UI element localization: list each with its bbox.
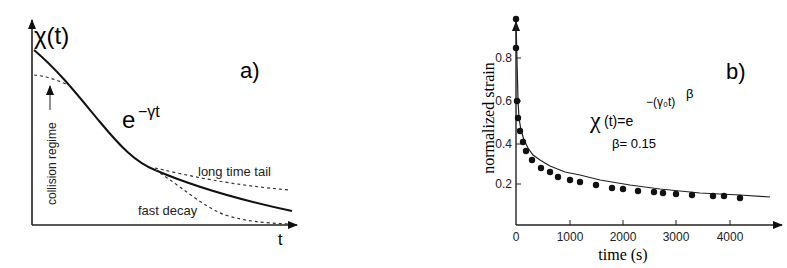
svg-text:0.4: 0.4 bbox=[495, 137, 512, 151]
formula-exponent: −γt bbox=[138, 103, 160, 120]
svg-text:0.8: 0.8 bbox=[495, 51, 512, 65]
panel-b-x-tick-labels: 0 1000 2000 3000 4000 bbox=[513, 230, 744, 244]
beta-value: β= 0.15 bbox=[612, 136, 656, 151]
fast-decay-label: fast decay bbox=[138, 203, 198, 218]
figure: χ(t) a) e −γt long time tail fast decay … bbox=[0, 0, 787, 268]
svg-text:4000: 4000 bbox=[717, 230, 744, 244]
formula-base: e bbox=[122, 106, 135, 133]
formula-exponent-b: −(γ₀t) bbox=[646, 95, 675, 109]
stretched-exp-fit-curve bbox=[516, 20, 770, 197]
svg-text:0: 0 bbox=[513, 230, 520, 244]
long-tail-label: long time tail bbox=[198, 164, 271, 179]
svg-text:1000: 1000 bbox=[557, 230, 584, 244]
panel-b: 0.8 0.6 0.4 0.2 0 1000 2000 3000 4000 no… bbox=[480, 16, 782, 264]
panel-a-xlabel: t bbox=[278, 231, 283, 248]
svg-text:2000: 2000 bbox=[610, 230, 637, 244]
data-points bbox=[513, 16, 743, 201]
panel-b-y-tick-labels: 0.8 0.6 0.4 0.2 bbox=[495, 51, 512, 191]
panel-a: χ(t) a) e −γt long time tail fast decay … bbox=[32, 20, 297, 248]
svg-text:0.2: 0.2 bbox=[495, 177, 512, 191]
formula-middle: (t)=e bbox=[604, 113, 633, 129]
formula-beta: β bbox=[686, 86, 693, 101]
panel-b-xlabel: time (s) bbox=[598, 246, 647, 264]
panel-a-ylabel: χ(t) bbox=[34, 22, 69, 49]
formula-chi: χ bbox=[589, 107, 601, 133]
svg-text:0.6: 0.6 bbox=[495, 94, 512, 108]
svg-text:3000: 3000 bbox=[663, 230, 690, 244]
panel-b-ylabel: normalized strain bbox=[480, 62, 497, 174]
panel-b-x-ticks bbox=[570, 220, 730, 225]
collision-regime-label: collision regime bbox=[45, 122, 59, 205]
panel-a-label: a) bbox=[240, 58, 260, 83]
panel-b-label: b) bbox=[726, 59, 746, 84]
